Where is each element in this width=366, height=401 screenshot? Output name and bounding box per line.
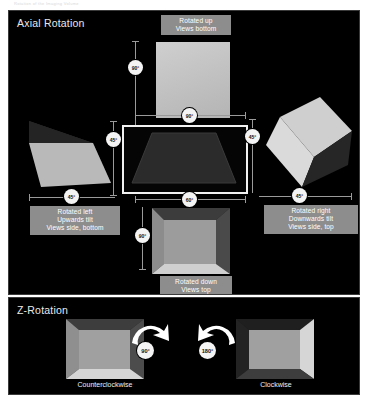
shape-rotated-down — [152, 208, 230, 274]
angle-badge-top-outer: 90° — [128, 60, 143, 75]
rule-cap-bottom-end — [139, 269, 146, 270]
rule-cap-right-top — [249, 119, 256, 120]
angle-badge-right-inner: 45° — [245, 129, 260, 144]
reference-frame — [122, 125, 248, 194]
rule-cap-left-bottom — [110, 195, 117, 196]
diagram-page: Rotation of the Imaging Volume Axial Rot… — [0, 0, 366, 401]
shape-clockwise — [236, 319, 314, 379]
angle-badge-right-outer: 45° — [292, 188, 307, 203]
rule-cap-top-right — [245, 112, 246, 119]
caption-rotated-left: Rotated left Upwards tilt Views side, bo… — [30, 206, 120, 235]
shape-rotated-left — [27, 107, 119, 195]
zrotation-angle-counterclockwise: 90° — [137, 342, 154, 359]
rule-cap-bottom-left — [135, 196, 136, 203]
zrotation-angle-clockwise: 180° — [199, 342, 216, 359]
angle-badge-top-inner: 90° — [182, 108, 197, 123]
faint-header-text: Rotation of the Imaging Volume — [14, 1, 134, 7]
rule-cap-top — [132, 41, 139, 42]
angle-badge-left-outer: 45° — [64, 189, 79, 204]
angle-badge-bottom-outer: 90° — [135, 228, 150, 243]
rule-cap-right-h-end — [351, 193, 352, 200]
zrotation-label-clockwise: Clockwise — [231, 381, 321, 388]
z-rotation-panel: Z-Rotation Counterclockwise 90° 180° — [8, 297, 360, 395]
caption-rotated-right: Rotated right Downwards tilt Views side,… — [264, 205, 358, 234]
z-panel-title: Z-Rotation — [17, 304, 68, 316]
shape-rotated-right — [262, 93, 360, 195]
zrotation-label-counterclockwise: Counterclockwise — [58, 381, 152, 388]
angle-badge-left-inner: 45° — [106, 132, 121, 147]
axial-panel-title: Axial Rotation — [17, 17, 85, 29]
rule-top-vertical — [135, 41, 136, 136]
rule-cap-left-h-start — [29, 194, 30, 201]
rule-cap-bottom-right — [245, 196, 246, 203]
shape-rotated-up — [156, 42, 230, 118]
axial-rotation-panel: Axial Rotation Rotated up Views bottom 9… — [8, 10, 360, 295]
caption-rotated-down: Rotated down Views top — [160, 276, 232, 295]
caption-rotated-up: Rotated up Views bottom — [161, 15, 231, 35]
reference-trapezoid-icon — [124, 127, 242, 188]
angle-badge-bottom-inner: 60° — [182, 192, 197, 207]
